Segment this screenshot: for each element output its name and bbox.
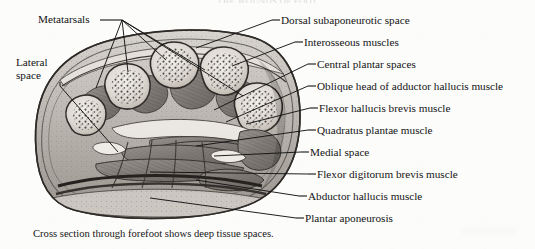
label-oblique-head-adductor-hallucis: Oblique head of adductor hallucis muscle xyxy=(317,80,503,93)
figure-page: THE WOUNDS OF FOOT xyxy=(0,0,535,249)
label-plantar-aponeurosis: Plantar aponeurosis xyxy=(305,212,393,225)
label-lateral-space: Lateral space xyxy=(16,56,74,82)
label-central-plantar-spaces: Central plantar spaces xyxy=(317,58,416,71)
figure-caption: Cross section through forefoot shows dee… xyxy=(33,228,274,239)
metatarsal-bone xyxy=(66,95,106,135)
label-medial-space: Medial space xyxy=(310,146,369,159)
label-interosseous-muscles: Interosseous muscles xyxy=(304,36,399,49)
label-dorsal-subaponeurotic-space: Dorsal subaponeurotic space xyxy=(281,14,410,27)
forefoot-cross-section-illustration xyxy=(0,0,535,249)
label-quadratus-plantae-muscle: Quadratus plantae muscle xyxy=(317,124,433,137)
label-flexor-digitorum-brevis-muscle: Flexor digitorum brevis muscle xyxy=(317,168,458,181)
label-metatarsals: Metatarsals xyxy=(38,13,90,26)
metatarsal-bone xyxy=(105,64,150,109)
label-abductor-hallucis-muscle: Abductor hallucis muscle xyxy=(308,190,422,203)
label-flexor-hallucis-brevis-muscle: Flexor hallucis brevis muscle xyxy=(319,102,450,115)
metatarsal-bone xyxy=(150,42,198,88)
